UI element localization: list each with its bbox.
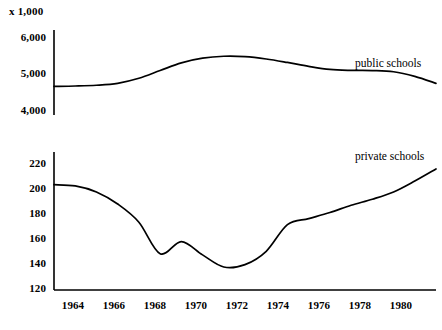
data-line-private-schools <box>54 169 436 268</box>
data-line-public-schools <box>54 56 436 86</box>
plot-canvas <box>0 0 442 330</box>
figure-container: x 1,000 6,000 5,000 4,000 public schools… <box>0 0 442 330</box>
